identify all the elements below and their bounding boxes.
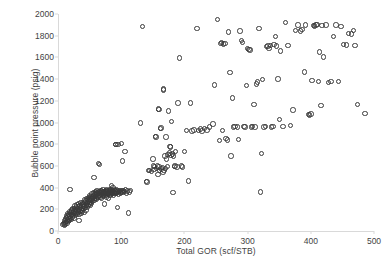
- data-point: [228, 153, 233, 158]
- data-point: [97, 162, 102, 167]
- data-point: [277, 117, 282, 122]
- data-point: [280, 124, 285, 129]
- data-point: [153, 134, 158, 139]
- x-tick-label: 200: [177, 236, 191, 246]
- data-point: [227, 70, 232, 75]
- plot-area: 0200400600800100012001400160018002000 01…: [58, 14, 374, 231]
- data-point: [247, 47, 252, 52]
- data-point: [158, 125, 163, 130]
- data-point: [156, 107, 161, 112]
- y-tick-mark: [55, 35, 58, 36]
- data-point: [140, 24, 145, 29]
- data-point: [256, 26, 261, 31]
- x-tick-mark: [58, 231, 59, 234]
- data-point: [165, 164, 170, 169]
- data-point: [270, 124, 275, 129]
- y-tick-mark: [55, 57, 58, 58]
- data-point: [328, 79, 333, 84]
- data-point: [76, 218, 81, 223]
- data-point: [352, 43, 357, 48]
- data-point: [67, 187, 72, 192]
- data-point: [263, 124, 268, 129]
- data-point: [302, 69, 307, 74]
- data-point: [126, 210, 131, 215]
- data-point: [242, 124, 247, 129]
- data-point: [102, 201, 107, 206]
- data-point: [290, 107, 295, 112]
- x-tick-mark: [184, 231, 185, 234]
- data-point: [91, 175, 96, 180]
- data-point: [244, 83, 249, 88]
- y-tick-mark: [55, 144, 58, 145]
- y-tick-mark: [55, 187, 58, 188]
- data-point: [316, 79, 321, 84]
- data-point: [150, 156, 155, 161]
- data-point: [169, 119, 174, 124]
- data-point: [351, 28, 356, 33]
- data-point: [285, 43, 290, 48]
- data-point: [275, 76, 280, 81]
- data-point: [235, 124, 240, 129]
- data-point: [252, 124, 257, 129]
- data-point: [288, 123, 293, 128]
- y-tick-mark: [55, 14, 58, 15]
- data-point: [186, 178, 191, 183]
- data-point: [217, 138, 222, 143]
- data-point: [237, 28, 242, 33]
- data-point: [323, 22, 328, 27]
- data-point: [344, 42, 349, 47]
- data-point: [278, 48, 283, 53]
- data-point: [122, 149, 127, 154]
- data-point: [138, 120, 143, 125]
- data-point: [194, 26, 199, 31]
- data-point: [215, 17, 220, 22]
- x-tick-label: 300: [241, 236, 255, 246]
- data-point: [175, 100, 180, 105]
- data-point: [220, 128, 225, 133]
- data-point: [240, 40, 245, 45]
- data-point: [321, 54, 326, 59]
- y-tick-mark: [55, 79, 58, 80]
- data-point: [180, 164, 185, 169]
- data-point: [258, 189, 263, 194]
- x-tick-mark: [374, 231, 375, 234]
- data-point: [331, 34, 336, 39]
- data-point: [182, 149, 187, 154]
- data-point: [355, 102, 360, 107]
- data-point: [188, 100, 193, 105]
- data-point: [144, 179, 149, 184]
- y-tick-mark: [55, 100, 58, 101]
- data-point: [336, 79, 341, 84]
- data-point: [171, 153, 176, 158]
- x-axis-title: Total GOR (scf/STB): [58, 246, 374, 256]
- data-point: [309, 78, 314, 83]
- data-point: [212, 82, 217, 87]
- data-point: [236, 137, 241, 142]
- x-tick-mark: [310, 231, 311, 234]
- data-point: [303, 22, 308, 27]
- data-point: [259, 151, 264, 156]
- x-axis-line: [58, 231, 374, 232]
- data-point: [299, 27, 304, 32]
- y-tick-mark: [55, 122, 58, 123]
- y-tick-mark: [55, 209, 58, 210]
- data-point: [318, 103, 323, 108]
- data-point: [273, 34, 278, 39]
- data-point: [338, 24, 343, 29]
- data-point: [210, 121, 215, 126]
- x-tick-label: 100: [114, 236, 128, 246]
- data-point: [230, 95, 235, 100]
- data-point: [119, 141, 124, 146]
- data-point: [222, 41, 227, 46]
- data-point: [225, 137, 230, 142]
- x-tick-mark: [247, 231, 248, 234]
- data-point: [168, 144, 173, 149]
- data-point: [184, 128, 189, 133]
- data-point: [161, 87, 166, 92]
- y-tick-mark: [55, 165, 58, 166]
- data-point: [170, 190, 175, 195]
- data-point: [115, 205, 120, 210]
- data-point: [166, 108, 171, 113]
- x-tick-label: 0: [56, 236, 61, 246]
- x-tick-mark: [121, 231, 122, 234]
